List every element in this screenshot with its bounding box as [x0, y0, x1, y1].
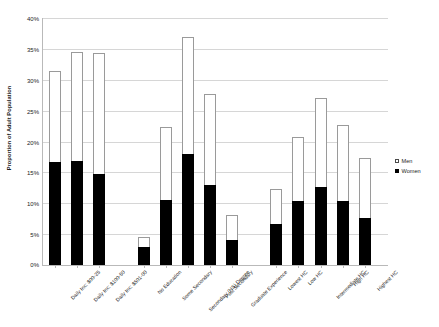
bar-segment-men [182, 37, 194, 155]
bar-segment-women [226, 240, 238, 265]
plot-area: 0%5%10%15%20%25%30%35%40% [42, 18, 388, 266]
bar-segment-women [160, 200, 172, 265]
bar-13 [359, 158, 371, 265]
bar-segment-men [359, 158, 371, 219]
bar-segment-men [315, 98, 327, 188]
bar-segment-men [270, 189, 282, 224]
y-axis-tick-label: 20% [27, 140, 39, 146]
gridline: 35% [43, 49, 388, 50]
y-axis-tick-label: 5% [30, 232, 39, 238]
bar-segment-women [182, 154, 194, 265]
bar-segment-women [315, 187, 327, 265]
bar-10 [292, 137, 304, 265]
bar-8 [226, 215, 238, 265]
bar-3 [93, 53, 105, 265]
x-axis-tick [55, 265, 56, 268]
gridline: 40% [43, 18, 388, 19]
y-axis-title-label: Proportion of Adult Population [6, 85, 12, 170]
x-axis-tick [298, 265, 299, 268]
legend-item-label: Women [402, 168, 421, 174]
y-axis-tick-label: 0% [30, 262, 39, 268]
chart-container: Proportion of Adult Population 0%5%10%15… [0, 0, 439, 327]
bar-segment-women [204, 185, 216, 265]
bar-4 [138, 237, 150, 265]
bar-5 [160, 127, 172, 265]
y-axis-title: Proportion of Adult Population [2, 0, 16, 255]
x-axis-category-label: Some Secondary [180, 269, 212, 301]
bar-segment-men [292, 137, 304, 201]
x-axis-tick [321, 265, 322, 268]
bar-segment-women [270, 224, 282, 265]
chart-legend: MenWomen [395, 158, 421, 178]
legend-item-women: Women [395, 168, 421, 174]
x-axis-tick [343, 265, 344, 268]
bar-segment-women [337, 201, 349, 265]
x-axis-tick [77, 265, 78, 268]
x-axis-category-label: Lowest HC [287, 269, 309, 291]
bar-segment-women [93, 174, 105, 265]
x-axis-tick [144, 265, 145, 268]
bar-segment-men [71, 52, 83, 161]
bar-segment-men [138, 237, 150, 247]
y-axis-tick-label: 15% [27, 170, 39, 176]
bar-9 [270, 189, 282, 265]
x-axis-category-label: Post Secondary [224, 269, 254, 299]
bar-2 [71, 52, 83, 265]
open-square-icon [395, 159, 399, 163]
bar-segment-women [71, 161, 83, 265]
bar-1 [49, 71, 61, 266]
bar-segment-men [160, 127, 172, 200]
x-axis-tick [276, 265, 277, 268]
x-axis-tick [210, 265, 211, 268]
bar-segment-women [359, 218, 371, 265]
legend-item-label: Men [402, 158, 413, 164]
bar-12 [337, 125, 349, 265]
filled-square-icon [395, 169, 399, 173]
y-axis-tick-label: 30% [27, 78, 39, 84]
bar-segment-men [204, 94, 216, 185]
x-axis-tick [188, 265, 189, 268]
y-axis-tick-label: 40% [27, 16, 39, 22]
bar-6 [182, 37, 194, 265]
legend-item-men: Men [395, 158, 421, 164]
bar-segment-men [337, 125, 349, 202]
x-axis-category-label: Graduate Experience [249, 269, 288, 308]
x-axis-category-label: No Education [156, 269, 182, 295]
bar-segment-women [292, 201, 304, 265]
bar-11 [315, 98, 327, 265]
bar-segment-men [49, 71, 61, 162]
x-axis-tick [99, 265, 100, 268]
x-axis-tick [166, 265, 167, 268]
y-axis-tick-label: 10% [27, 201, 39, 207]
bar-7 [204, 94, 216, 265]
x-axis-tick [232, 265, 233, 268]
y-axis-tick-label: 35% [27, 47, 39, 53]
y-axis-tick-label: 25% [27, 109, 39, 115]
bar-segment-women [49, 162, 61, 265]
bar-segment-men [93, 53, 105, 175]
x-axis-category-label: Highest HC [376, 269, 399, 292]
bar-segment-women [138, 247, 150, 265]
x-axis-category-label: Low HC [307, 269, 324, 286]
bar-segment-men [226, 215, 238, 240]
